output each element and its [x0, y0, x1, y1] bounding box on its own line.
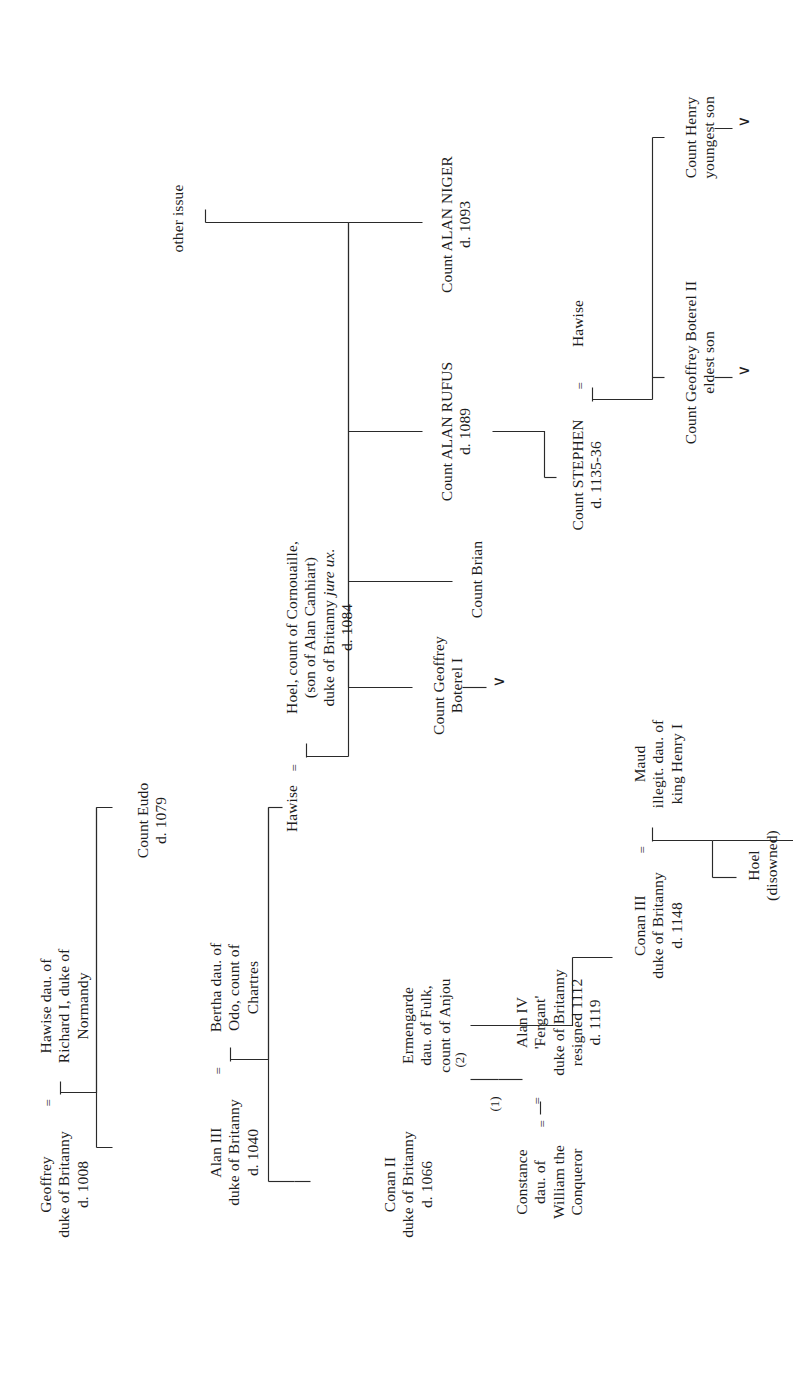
count-brian-node: Count Brian: [467, 514, 485, 644]
descent-chevron: ∨: [490, 675, 506, 687]
hoel-count-of-cornouaille-node-line: (son of Alan Canhiart): [300, 502, 318, 752]
alan-iii-node: Alan IIIduke of Britannyd. 1040: [206, 1077, 261, 1227]
conan-iii-node-line: Conan III: [630, 850, 648, 1000]
alan-iv-fergant-node-line: Alan IV: [512, 942, 530, 1102]
count-geoffrey-boterel-ii-node-line: eldest son: [699, 237, 717, 487]
constance-node-line: Conqueror: [567, 1119, 585, 1244]
count-eudo-node: Count Eudod. 1079: [133, 760, 170, 880]
count-henry-node: Count Henryyoungest son: [681, 62, 718, 212]
alan-rufus-stephen-drop: [492, 431, 544, 477]
hawise-of-normandy-node-line: Normandy: [73, 923, 91, 1088]
bertha-of-chartres-node: Bertha dau. ofOdo, count ofChartres: [206, 917, 261, 1057]
conan-ii-node-line: d. 1066: [417, 1109, 435, 1259]
count-alan-rufus-node: Count ALAN RUFUSd. 1089: [437, 336, 474, 526]
marriage-equals-sign: =: [211, 1067, 224, 1074]
descent-chevron: ∨: [735, 115, 751, 127]
hawise-of-normandy-node-line: Richard I, duke of: [54, 923, 72, 1088]
conan-iii-node-line: d. 1148: [667, 850, 685, 1000]
first-marriage-marker: (1): [487, 1096, 500, 1111]
hawise-node: Hawise: [282, 769, 300, 847]
count-alan-niger-node: Count ALAN NIGERd. 1093: [437, 129, 474, 319]
count-geoffrey-boterel-i-node-line: Count Geoffrey: [429, 610, 447, 760]
hoel-count-of-cornouaille-node: Hoel, count of Cornouaille,(son of Alan …: [282, 502, 355, 752]
hawise-of-normandy-node: Hawise dau. ofRichard I, duke ofNormandy: [36, 923, 91, 1088]
chart-page: The dukes of Britanny and earls of Richm…: [0, 0, 793, 1377]
maud-node-line: Maud: [630, 696, 648, 831]
constance-node: Constancedau. ofWilliam theConqueror: [512, 1119, 585, 1244]
bertha-of-chartres-node-line: Bertha dau. of: [206, 917, 224, 1057]
count-brian-node-line: Count Brian: [467, 514, 485, 644]
conan-ii-node: Conan IIduke of Britannyd. 1066: [380, 1109, 435, 1259]
count-stephen-node: Count STEPHENd. 1135-36: [568, 392, 605, 557]
hoel-count-of-cornouaille-node-line: Hoel, count of Cornouaille,: [282, 502, 300, 752]
maud-node-line: illegit. dau. of: [648, 696, 666, 831]
conan-ii-node-line: duke of Britanny: [398, 1109, 416, 1259]
count-henry-node-line: Count Henry: [681, 62, 699, 212]
bertha-of-chartres-node-line: Odo, count of: [224, 917, 242, 1057]
count-henry-node-line: youngest son: [699, 62, 717, 212]
rotated-stage: The dukes of Britanny and earls of Richm…: [0, 0, 793, 1377]
hoel-disowned-node: Hoel(disowned): [744, 810, 781, 920]
conan-iii-node-line: duke of Britanny: [648, 850, 666, 1000]
geoffrey-node-line: d. 1008: [73, 1109, 91, 1259]
alan-iv-fergant-node-line: 'Fergant': [530, 942, 548, 1102]
marriage-equals-sign: =: [530, 1097, 543, 1104]
count-alan-niger-node-line: d. 1093: [455, 129, 473, 319]
alan-iv-fergant-node-line: d. 1119: [585, 942, 603, 1102]
hoel-count-of-cornouaille-node-line: d. 1084: [337, 502, 355, 752]
ermengarde-of-anjou-node-line: count of Anjou: [435, 955, 453, 1095]
count-geoffrey-boterel-i-node-line: Boterel I: [447, 610, 465, 760]
ermengarde-of-anjou-node-line: dau. of Fulk,: [416, 955, 434, 1095]
hoel-disowned-node-line: (disowned): [762, 810, 780, 920]
conan-iii-node: Conan IIIduke of Britannyd. 1148: [630, 850, 685, 1000]
marriage-equals-sign: =: [635, 846, 648, 853]
alan-iii-node-line: d. 1040: [243, 1077, 261, 1227]
count-geoffrey-boterel-i-node: Count GeoffreyBoterel I: [429, 610, 466, 760]
family-tree: Geoffreyduke of Britannyd. 1008Hawise da…: [0, 0, 793, 1377]
other-issue-node-line: other issue: [168, 158, 186, 278]
count-geoffrey-boterel-ii-node-line: Count Geoffrey Boterel II: [681, 237, 699, 487]
hawise-wife-of-stephen-node-line: Hawise: [568, 278, 586, 368]
count-alan-niger-node-line: Count ALAN NIGER: [437, 129, 455, 319]
alan-iv-fergant-node: Alan IV'Fergant'duke of Britannyresigned…: [512, 942, 603, 1102]
marriage-equals-sign: =: [535, 1120, 548, 1127]
alan-iv-fergant-node-line: resigned 1112: [567, 942, 585, 1102]
count-alan-rufus-node-line: d. 1089: [455, 336, 473, 526]
count-stephen-node-line: Count STEPHEN: [568, 392, 586, 557]
hoel-count-of-cornouaille-node-line: duke of Britanny jure ux.: [319, 502, 337, 752]
geoffrey-node-line: Geoffrey: [36, 1109, 54, 1259]
hawise-of-normandy-node-line: Hawise dau. of: [36, 923, 54, 1088]
conan-ii-node-line: Conan II: [380, 1109, 398, 1259]
alan-iv-fergant-node-line: duke of Britanny: [549, 942, 567, 1102]
ermengarde-of-anjou-node: Ermengardedau. of Fulk,count of Anjou: [398, 955, 453, 1095]
descent-chevron: ∨: [735, 364, 751, 376]
alan-iii-node-line: duke of Britanny: [224, 1077, 242, 1227]
marriage-equals-sign: =: [287, 764, 300, 771]
constance-node-line: Constance: [512, 1119, 530, 1244]
hawise-node-line: Hawise: [282, 769, 300, 847]
second-marriage-marker: (2): [452, 1052, 465, 1067]
maud-node: Maudillegit. dau. ofking Henry I: [630, 696, 685, 831]
count-alan-rufus-node-line: Count ALAN RUFUS: [437, 336, 455, 526]
constance-node-line: dau. of: [530, 1119, 548, 1244]
other-issue-node: other issue: [168, 158, 186, 278]
hawise-wife-of-stephen-node: Hawise: [568, 278, 586, 368]
geoffrey-node-line: duke of Britanny: [54, 1109, 72, 1259]
count-eudo-node-line: d. 1079: [151, 760, 169, 880]
count-eudo-node-line: Count Eudo: [133, 760, 151, 880]
count-geoffrey-boterel-ii-node: Count Geoffrey Boterel IIeldest son: [681, 237, 718, 487]
bertha-of-chartres-node-line: Chartres: [243, 917, 261, 1057]
marriage-equals-sign: =: [573, 382, 586, 389]
ermengarde-of-anjou-node-line: Ermengarde: [398, 955, 416, 1095]
marriage-equals-sign: =: [41, 1099, 54, 1106]
maud-node-line: king Henry I: [667, 696, 685, 831]
count-stephen-node-line: d. 1135-36: [586, 392, 604, 557]
hoel-disowned-node-line: Hoel: [744, 810, 762, 920]
constance-node-line: William the: [549, 1119, 567, 1244]
geoffrey-node: Geoffreyduke of Britannyd. 1008: [36, 1109, 91, 1259]
alan-iii-node-line: Alan III: [206, 1077, 224, 1227]
